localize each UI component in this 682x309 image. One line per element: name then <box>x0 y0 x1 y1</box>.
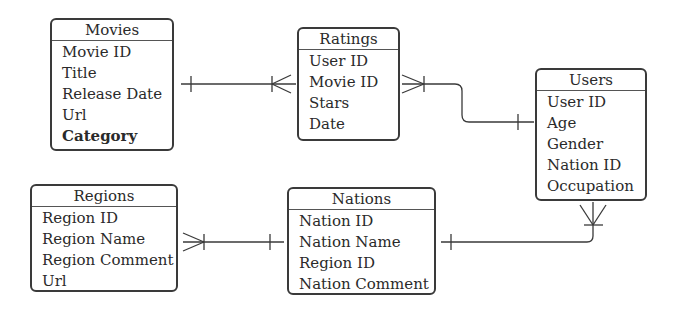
entity-title: Nations <box>289 189 434 210</box>
attribute: Url <box>42 271 168 292</box>
attribute: Category <box>62 126 164 147</box>
attribute: Nation Name <box>299 232 426 253</box>
attribute: Region ID <box>42 208 168 229</box>
attribute: Title <box>62 63 164 84</box>
attribute: Release Date <box>62 84 164 105</box>
attribute: Url <box>62 105 164 126</box>
attribute: User ID <box>547 92 637 113</box>
entity-nations[interactable]: Nations Nation ID Nation Name Region ID … <box>287 187 436 295</box>
entity-title: Ratings <box>299 29 398 50</box>
attribute: User ID <box>309 51 390 72</box>
attribute: Movie ID <box>62 42 164 63</box>
attribute: Age <box>547 113 637 134</box>
entity-regions[interactable]: Regions Region ID Region Name Region Com… <box>30 184 178 292</box>
attribute: Gender <box>547 134 637 155</box>
attribute: Movie ID <box>309 72 390 93</box>
attribute: Nation ID <box>299 211 426 232</box>
link-regions-nations <box>183 233 284 251</box>
attribute: Region Comment <box>42 250 168 271</box>
attribute: Region ID <box>299 253 426 274</box>
entity-users[interactable]: Users User ID Age Gender Nation ID Occup… <box>535 68 647 201</box>
attribute: Stars <box>309 93 390 114</box>
attribute: Date <box>309 114 390 135</box>
link-ratings-users <box>402 75 534 130</box>
attribute: Nation Comment <box>299 274 426 295</box>
attribute: Nation ID <box>547 155 637 176</box>
attribute: Occupation <box>547 176 637 197</box>
link-movies-ratings <box>181 75 296 93</box>
entity-ratings[interactable]: Ratings User ID Movie ID Stars Date <box>297 27 400 141</box>
entity-title: Users <box>537 70 645 91</box>
entity-title: Movies <box>52 20 172 41</box>
entity-movies[interactable]: Movies Movie ID Title Release Date Url C… <box>50 18 174 151</box>
attribute: Region Name <box>42 229 168 250</box>
entity-title: Regions <box>32 186 176 207</box>
link-users-nations <box>441 202 606 250</box>
